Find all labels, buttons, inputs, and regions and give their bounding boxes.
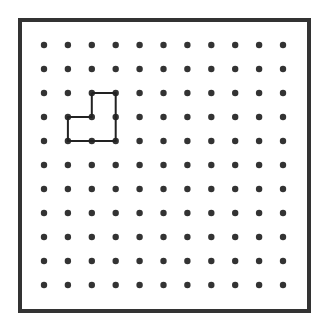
grid-dot <box>89 234 95 240</box>
grid-dot <box>256 162 262 168</box>
grid-dot <box>208 258 214 264</box>
grid-dot <box>160 282 166 288</box>
grid-dot <box>136 138 142 144</box>
grid-dot <box>208 90 214 96</box>
grid-dot <box>208 162 214 168</box>
grid-dot <box>113 258 119 264</box>
grid-dot <box>232 90 238 96</box>
grid-dot <box>280 282 286 288</box>
grid-dot <box>280 210 286 216</box>
grid-dot <box>280 42 286 48</box>
grid-dot <box>232 42 238 48</box>
grid-dot <box>41 42 47 48</box>
grid-dot <box>256 42 262 48</box>
grid-dot <box>184 138 190 144</box>
grid-dot <box>232 234 238 240</box>
grid-dot <box>65 234 71 240</box>
grid-dot <box>208 114 214 120</box>
grid-dot <box>113 282 119 288</box>
grid-dot <box>256 138 262 144</box>
grid-dot <box>232 186 238 192</box>
grid-dot <box>160 210 166 216</box>
grid-dot <box>41 282 47 288</box>
grid-dot <box>113 210 119 216</box>
grid-dot <box>256 66 262 72</box>
grid-dot <box>65 66 71 72</box>
grid-dot <box>136 282 142 288</box>
grid-dot <box>208 42 214 48</box>
grid-dot <box>136 258 142 264</box>
grid-dot <box>184 162 190 168</box>
grid-dot <box>184 42 190 48</box>
grid-dot <box>136 90 142 96</box>
grid-dot <box>256 90 262 96</box>
grid-dot <box>113 234 119 240</box>
grid-dot <box>256 210 262 216</box>
grid-dot <box>232 66 238 72</box>
grid-dot <box>89 186 95 192</box>
grid-dot <box>232 282 238 288</box>
grid-dot <box>160 258 166 264</box>
grid-dot <box>136 210 142 216</box>
grid-dot <box>280 162 286 168</box>
grid-dot <box>41 66 47 72</box>
grid-dot <box>113 162 119 168</box>
grid-dot <box>280 138 286 144</box>
grid-dot <box>136 42 142 48</box>
grid-dot <box>208 186 214 192</box>
grid-dot <box>41 210 47 216</box>
grid-dot <box>280 186 286 192</box>
grid-dot <box>232 210 238 216</box>
grid-dot <box>208 66 214 72</box>
grid-dot <box>41 138 47 144</box>
grid-dot <box>184 186 190 192</box>
grid-dot <box>89 162 95 168</box>
grid-dot <box>184 234 190 240</box>
grid-dot <box>184 210 190 216</box>
grid-dot <box>208 210 214 216</box>
grid-dot <box>89 66 95 72</box>
grid-dot <box>256 258 262 264</box>
grid-dot <box>160 186 166 192</box>
grid-dot <box>184 282 190 288</box>
grid-dot <box>280 66 286 72</box>
grid-dot <box>232 138 238 144</box>
grid-dot <box>160 90 166 96</box>
dot-grid <box>41 42 286 288</box>
dot-grid-board <box>0 0 318 327</box>
grid-dot <box>280 258 286 264</box>
grid-dot <box>280 90 286 96</box>
grid-dot <box>89 258 95 264</box>
grid-dot <box>184 258 190 264</box>
grid-dot <box>136 186 142 192</box>
grid-dot <box>280 114 286 120</box>
grid-dot <box>136 66 142 72</box>
grid-dot <box>113 66 119 72</box>
grid-dot <box>136 234 142 240</box>
grid-dot <box>89 282 95 288</box>
grid-dot <box>113 186 119 192</box>
grid-dot <box>136 162 142 168</box>
grid-dot <box>113 42 119 48</box>
grid-dot <box>65 258 71 264</box>
grid-dot <box>184 66 190 72</box>
grid-dot <box>208 282 214 288</box>
grid-dot <box>89 42 95 48</box>
grid-dot <box>232 258 238 264</box>
grid-dot <box>280 234 286 240</box>
grid-dot <box>65 162 71 168</box>
grid-dot <box>184 114 190 120</box>
grid-dot <box>160 138 166 144</box>
grid-dot <box>232 162 238 168</box>
grid-dot <box>160 66 166 72</box>
grid-dot <box>256 234 262 240</box>
grid-dot <box>41 186 47 192</box>
grid-dot <box>41 90 47 96</box>
grid-dot <box>65 210 71 216</box>
grid-dot <box>208 138 214 144</box>
grid-dot <box>41 258 47 264</box>
grid-dot <box>136 114 142 120</box>
grid-dot <box>184 90 190 96</box>
grid-dot <box>256 282 262 288</box>
grid-dot <box>160 234 166 240</box>
